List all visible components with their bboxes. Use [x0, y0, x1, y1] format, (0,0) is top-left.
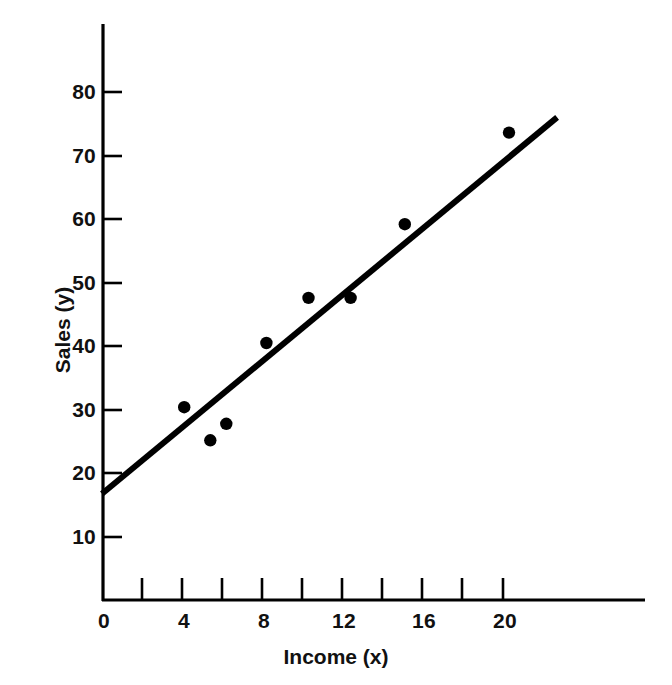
x-axis-title: Income (x)	[283, 645, 388, 669]
y-tick-label-40: 40	[72, 334, 96, 358]
x-tick-label-16: 16	[412, 609, 436, 633]
regression-line	[102, 117, 557, 493]
data-point	[204, 434, 216, 446]
x-tick-label-8: 8	[258, 609, 270, 633]
y-tick-label-20: 20	[72, 461, 96, 485]
data-point	[399, 218, 411, 230]
data-point	[302, 292, 314, 304]
y-tick-label-10: 10	[72, 525, 96, 549]
y-axis-title: Sales (y)	[51, 287, 75, 373]
data-point	[260, 337, 272, 349]
y-tick-label-60: 60	[72, 207, 96, 231]
y-axis-ticks	[103, 92, 122, 537]
y-tick-label-30: 30	[72, 398, 96, 422]
x-tick-label-0: 0	[98, 609, 110, 633]
x-tick-label-4: 4	[178, 609, 190, 633]
data-point	[344, 292, 356, 304]
axes-group	[102, 24, 645, 601]
x-tick-label-20: 20	[493, 609, 517, 633]
y-tick-label-80: 80	[72, 80, 96, 104]
x-tick-label-12: 12	[332, 609, 356, 633]
data-point	[178, 401, 190, 413]
y-tick-label-70: 70	[72, 144, 96, 168]
data-point-group	[178, 126, 515, 446]
y-tick-label-50: 50	[72, 271, 96, 295]
data-point	[220, 418, 232, 430]
plot-canvas	[0, 0, 672, 685]
x-axis-ticks	[142, 578, 503, 600]
data-point	[503, 126, 515, 138]
scatter-plot-figure: 80 70 60 50 40 30 20 10 0 4 8 12 16 20 I…	[0, 0, 672, 685]
